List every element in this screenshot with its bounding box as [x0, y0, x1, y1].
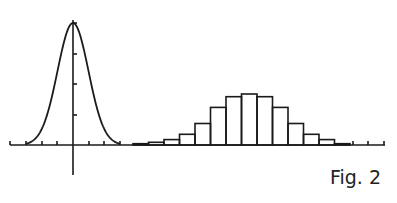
histogram-bar	[257, 97, 273, 145]
histogram-bar	[180, 134, 196, 145]
histogram-bar	[273, 107, 289, 145]
histogram-bar	[288, 124, 304, 146]
figure-caption: Fig. 2	[330, 166, 381, 188]
histogram-bar	[164, 140, 180, 145]
histogram-bar	[133, 144, 149, 145]
histogram-bar	[335, 144, 351, 145]
histogram-bar	[211, 107, 227, 145]
histogram-bar	[195, 124, 211, 146]
histogram-bar	[319, 140, 335, 145]
histogram-bar	[226, 97, 242, 145]
histogram-bar	[242, 94, 258, 145]
histogram-bars	[133, 94, 350, 145]
histogram-bar	[304, 134, 320, 145]
histogram-bar	[149, 142, 165, 145]
